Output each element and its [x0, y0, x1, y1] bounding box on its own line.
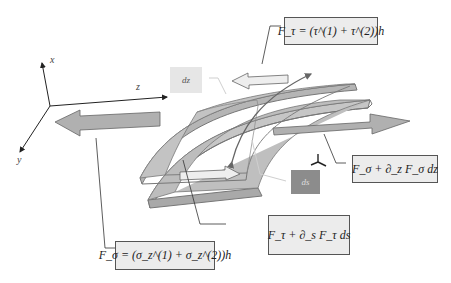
x-axis-label: x [50, 54, 54, 65]
f-tau-equation: F_τ = (τ^(1) + τ^(2))h [278, 24, 385, 39]
f-tau-ds-equation-box: F_τ + ∂_s F_τ ds [268, 215, 350, 255]
f-sigma-arrow [55, 110, 160, 136]
y-axis-label: y [17, 154, 21, 165]
triad-symbol [311, 154, 326, 166]
f-sigma-dz-equation-box: F_σ + ∂_z F_σ dz [352, 155, 438, 183]
diagram-canvas [0, 0, 451, 283]
f-tau-ds-equation: F_τ + ∂_s F_τ ds [268, 228, 351, 243]
ds-tag: ds [291, 170, 320, 194]
z-axis-label: z [136, 81, 140, 92]
lower-plate [148, 100, 372, 208]
z-axis [50, 97, 167, 106]
f-tau-equation-box: F_τ = (τ^(1) + τ^(2))h [284, 17, 378, 45]
f-tau-arrow [232, 73, 288, 89]
f-sigma-equation-box: F_σ = (σ_z^(1) + σ_z^(2))h [115, 241, 215, 270]
dz-tag: dz [170, 67, 202, 93]
f-sigma-dz-equation: F_σ + ∂_z F_σ dz [352, 162, 438, 177]
x-axis [42, 63, 50, 106]
y-axis [20, 106, 50, 152]
f-sigma-equation: F_σ = (σ_z^(1) + σ_z^(2))h [99, 248, 232, 263]
coordinate-axes [20, 63, 167, 152]
